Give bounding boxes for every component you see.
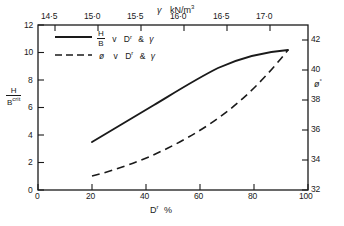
bottom-tick-label-5: 100 [299,192,313,201]
bottom-tick-label-1: 20 [86,192,95,201]
top-tick-label-5: 17·0 [256,12,272,21]
bottom-tick-label-2: 40 [140,192,149,201]
degree-symbol: ° [320,78,322,84]
right-tick-label-5: 42 [311,35,320,44]
top-tick-label-2: 15·5 [127,12,143,21]
left-axis-numerator: H [6,87,21,96]
chart-figure: γ kN/m3 14·5 15·0 15·5 16·0 16·5 17·0 0 … [0,0,344,226]
bottom-tick-label-3: 60 [194,192,203,201]
legend-dashed-amp: & [140,51,146,61]
legend-item-dashed: ø v Dr & γ [99,50,155,60]
top-tick-label-1: 15·0 [84,12,100,21]
bottom-tick-label-4: 80 [248,192,257,201]
legend-solid-gamma: γ [149,34,153,44]
right-axis-title: ø° [314,78,322,89]
left-axis-ticks [38,25,44,190]
series-dashed-phi [92,50,288,176]
series-solid-hb [92,50,288,142]
legend-item-solid: H B v Dr & γ [97,31,154,49]
legend-dashed-symbol: ø [99,51,104,61]
left-tick-label-5: 10 [24,48,33,57]
bottom-axis-label-unit: % [164,205,172,215]
left-tick-label-2: 4 [28,131,33,140]
bottom-axis-title: Dr % [150,204,172,215]
left-axis-title: H Bcrit [6,88,21,108]
legend-solid-x-sub: r [130,34,132,40]
legend-solid-amp: & [138,34,144,44]
left-tick-label-0: 0 [28,186,33,195]
left-tick-label-1: 2 [28,158,33,167]
gamma-symbol: γ [157,5,162,15]
right-tick-label-3: 38 [311,95,320,104]
right-tick-label-1: 34 [311,155,320,164]
left-tick-label-6: 12 [24,21,33,30]
top-tick-label-0: 14·5 [41,12,57,21]
chart-canvas [0,0,344,226]
legend-solid-v: v [112,34,116,44]
legend-dashed-v: v [114,51,118,61]
legend-solid-numerator: H [97,30,105,39]
legend-dashed-gamma: γ [151,51,155,61]
right-tick-label-2: 36 [311,125,320,134]
left-tick-label-3: 6 [28,103,33,112]
bottom-axis-label-sub: r [157,204,159,210]
bottom-axis-ticks [38,184,308,190]
top-axis-unit-exponent: 3 [191,4,194,10]
plot-frame [38,25,308,190]
left-axis-denominator-sub: crit [12,96,20,102]
legend-swatches [55,37,92,55]
left-tick-label-4: 8 [28,76,33,85]
bottom-tick-label-0: 0 [35,192,40,201]
right-axis-ticks [302,40,308,190]
legend-dashed-x-sub: r [131,50,133,56]
top-axis-ticks [55,25,270,31]
top-tick-label-3: 16·0 [170,12,186,21]
legend-solid-denominator: B [97,39,105,48]
right-tick-label-4: 40 [311,65,320,74]
top-tick-label-4: 16·5 [213,12,229,21]
